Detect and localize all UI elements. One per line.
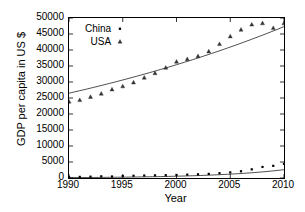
- data-point-usa: [132, 80, 136, 84]
- data-point-china: [229, 171, 231, 173]
- data-point-usa: [69, 100, 71, 104]
- chart-figure: GDP per capita in US $ 05000100001500020…: [0, 0, 305, 212]
- data-point-usa: [175, 60, 179, 64]
- fit-lines: [69, 27, 284, 178]
- x-tick-label: 2010: [263, 179, 303, 191]
- y-tick-label: 50000: [26, 12, 64, 22]
- data-point-china: [154, 174, 156, 176]
- chart-legend: ChinaUSA: [85, 22, 124, 48]
- y-tick-label: 35000: [26, 60, 64, 70]
- data-point-usa: [110, 87, 114, 91]
- data-point-china: [111, 175, 113, 177]
- x-tick-label: 2000: [156, 179, 196, 191]
- data-point-china: [165, 174, 167, 176]
- data-point-china: [89, 176, 91, 178]
- y-tick-label: 15000: [26, 124, 64, 134]
- x-tick-label: 1990: [48, 179, 88, 191]
- triangle-marker-icon: [116, 37, 124, 46]
- data-point-china: [208, 173, 210, 175]
- y-tick-label: 25000: [26, 92, 64, 102]
- data-point-china: [175, 174, 177, 176]
- data-point-china: [283, 163, 284, 165]
- data-point-china: [261, 166, 263, 168]
- data-point-usa: [89, 95, 93, 99]
- data-point-usa: [282, 21, 284, 25]
- data-point-usa: [261, 21, 265, 25]
- data-point-china: [143, 174, 145, 176]
- legend-label: USA: [91, 35, 112, 48]
- data-point-china: [100, 175, 102, 177]
- data-point-china: [251, 168, 253, 170]
- data-point-china: [186, 174, 188, 176]
- data-point-usa: [78, 98, 82, 102]
- data-point-china: [132, 175, 134, 177]
- data-point-china: [122, 175, 124, 177]
- data-point-usa: [239, 28, 243, 32]
- data-point-usa: [121, 84, 125, 88]
- y-tick-label: 30000: [26, 76, 64, 86]
- data-point-usa: [185, 57, 189, 61]
- data-point-china: [272, 165, 274, 167]
- data-point-usa: [142, 76, 146, 80]
- dot-marker-icon: [116, 24, 124, 33]
- y-tick-label: 40000: [26, 44, 64, 54]
- data-point-china: [197, 173, 199, 175]
- y-tick-label: 5000: [26, 156, 64, 166]
- data-point-usa: [99, 92, 103, 96]
- data-point-usa: [207, 49, 211, 53]
- legend-item-usa: USA: [85, 35, 124, 48]
- data-point-china: [240, 170, 242, 172]
- x-tick-label: 2005: [209, 179, 249, 191]
- data-point-china: [69, 176, 70, 178]
- legend-label: China: [85, 22, 111, 35]
- y-tick-label: 20000: [26, 108, 64, 118]
- data-point-usa: [271, 26, 275, 30]
- x-tick-label: 1995: [102, 179, 142, 191]
- legend-item-china: China: [85, 22, 124, 35]
- y-tick-label: 10000: [26, 140, 64, 150]
- plot-area: ChinaUSA: [68, 17, 285, 179]
- data-point-usa: [250, 22, 254, 26]
- data-point-usa: [228, 34, 232, 38]
- x-axis-tick-labels: 19901995200020052010: [0, 179, 305, 193]
- data-point-china: [218, 172, 220, 174]
- data-point-china: [79, 176, 81, 178]
- data-point-usa: [196, 54, 200, 58]
- data-point-usa: [218, 42, 222, 46]
- y-tick-label: 45000: [26, 28, 64, 38]
- x-axis-title: Year: [68, 192, 283, 205]
